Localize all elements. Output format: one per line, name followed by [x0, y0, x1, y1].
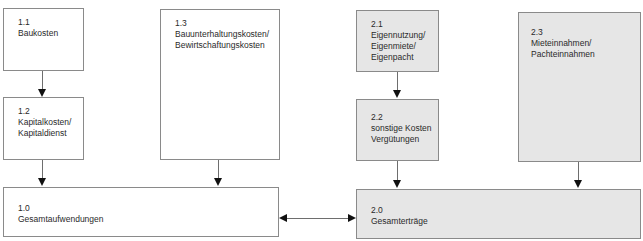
- connector-1-0-to-2-0: [286, 218, 348, 219]
- arrow-right-icon: [348, 214, 356, 222]
- connector-1-3-to-1-0: [218, 160, 219, 179]
- node-label: Gesamtaufwendungen: [18, 214, 278, 225]
- node-id: 1.3: [175, 18, 279, 29]
- node-id: 1.0: [18, 203, 278, 214]
- node-1-0-gesamtaufwendungen: 1.0 Gesamtaufwendungen: [3, 187, 279, 237]
- node-1-3-bauunterhaltungskosten: 1.3 Bauunterhaltungskosten/ Bewirtschaft…: [160, 9, 280, 160]
- node-label: Eigennutzung/: [371, 30, 438, 41]
- node-2-0-gesamtertraege: 2.0 Gesamterträge: [356, 189, 641, 239]
- node-label: Bewirtschaftungskosten: [175, 40, 279, 51]
- node-label: Mieteinnahmen/: [531, 38, 640, 49]
- arrow-down-icon: [38, 89, 46, 97]
- node-id: 2.1: [371, 19, 438, 30]
- node-id: 2.3: [531, 27, 640, 38]
- node-label: Gesamterträge: [371, 216, 640, 227]
- node-1-1-baukosten: 1.1 Baukosten: [3, 8, 84, 71]
- connector-1-1-to-1-2: [42, 71, 43, 90]
- node-label: sonstige Kosten: [371, 123, 438, 134]
- arrow-down-icon: [38, 178, 46, 186]
- arrow-down-icon: [574, 180, 582, 188]
- node-label: Eigenpacht: [371, 52, 438, 63]
- node-label: Baukosten: [18, 28, 83, 39]
- arrow-down-icon: [214, 178, 222, 186]
- arrow-down-icon: [393, 90, 401, 98]
- node-2-1-eigennutzung: 2.1 Eigennutzung/ Eigenmiete/ Eigenpacht: [356, 10, 439, 72]
- node-label: Eigenmiete/: [371, 41, 438, 52]
- node-label: Kapitaldienst: [18, 128, 83, 139]
- node-2-3-mieteinnahmen: 2.3 Mieteinnahmen/ Pachteinnahmen: [518, 12, 641, 162]
- connector-1-2-to-1-0: [42, 160, 43, 179]
- node-label: Vergütungen: [371, 134, 438, 145]
- node-id: 1.1: [18, 17, 83, 28]
- node-label: Kapitalkosten/: [18, 117, 83, 128]
- arrow-down-icon: [393, 180, 401, 188]
- connector-2-3-to-2-0: [578, 162, 579, 181]
- arrow-left-icon: [279, 214, 287, 222]
- node-id: 1.2: [18, 106, 83, 117]
- node-label: Pachteinnahmen: [531, 49, 640, 60]
- node-id: 2.2: [371, 112, 438, 123]
- connector-2-1-to-2-2: [397, 72, 398, 91]
- connector-2-2-to-2-0: [397, 161, 398, 181]
- node-label: Bauunterhaltungskosten/: [175, 29, 279, 40]
- node-id: 2.0: [371, 205, 640, 216]
- node-2-2-sonstige-kosten: 2.2 sonstige Kosten Vergütungen: [356, 99, 439, 161]
- node-1-2-kapitalkosten: 1.2 Kapitalkosten/ Kapitaldienst: [3, 97, 84, 160]
